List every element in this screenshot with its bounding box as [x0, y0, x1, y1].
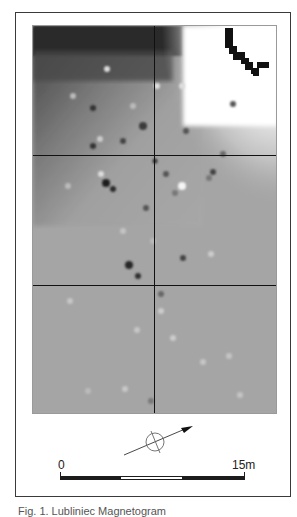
- scale-tick-end: [244, 472, 245, 480]
- grid-line-horizontal-1: [33, 155, 276, 156]
- scale-end-label: 15m: [232, 458, 255, 472]
- magnetometry-map: [32, 25, 277, 414]
- survey-raster: [33, 26, 277, 414]
- scale-bar: 0 15m: [58, 458, 248, 488]
- scale-segment-2: [121, 476, 182, 480]
- scale-start-label: 0: [58, 458, 65, 472]
- scale-segment-1: [60, 476, 121, 480]
- grid-line-vertical: [154, 26, 155, 413]
- scale-segment-3: [182, 476, 244, 480]
- figure-caption: Fig. 1. Lubliniec Magnetogram: [18, 505, 166, 517]
- grid-line-horizontal-2: [33, 285, 276, 286]
